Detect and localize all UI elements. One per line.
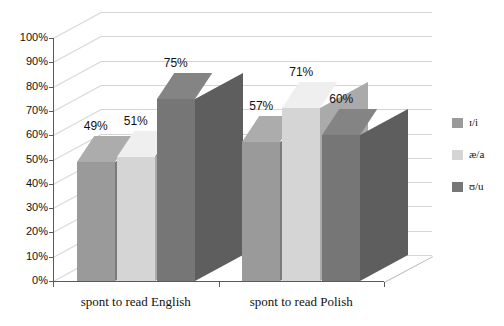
gridline-depth-edge <box>53 12 101 39</box>
bar-value-label: 60% <box>314 93 368 105</box>
legend-label: ʊ/u <box>469 180 484 192</box>
gridline-depth-edge <box>53 36 101 63</box>
y-axis-tick-mark <box>49 208 53 209</box>
y-axis-tick-mark <box>49 38 53 39</box>
y-axis-line <box>53 38 54 282</box>
x-axis-category-label: spont to read English <box>53 295 219 309</box>
bar-chart: 0%10%20%30%40%50%60%70%80%90%100% 49%51%… <box>0 0 504 326</box>
gridline <box>101 85 432 86</box>
gridline <box>101 12 432 13</box>
bar-side-face <box>360 109 408 281</box>
y-axis-tick-label: 30% <box>4 202 48 213</box>
x-axis-category-label: spont to read Polish <box>219 295 385 309</box>
bar-front-face <box>282 108 320 281</box>
bar-front-face <box>322 135 360 281</box>
gridline-depth-edge <box>53 61 101 88</box>
y-axis-tick-mark <box>49 257 53 258</box>
y-axis-tick-mark <box>49 111 53 112</box>
bar-value-label: 51% <box>109 115 163 127</box>
x-axis-tick-mark <box>384 282 385 287</box>
bar-front-face <box>77 162 115 281</box>
x-axis-tick-mark <box>219 282 220 287</box>
y-axis-tick-mark <box>49 135 53 136</box>
y-axis-tick-label: 80% <box>4 81 48 92</box>
legend-label: æ/a <box>469 148 484 160</box>
y-axis-tick-mark <box>49 160 53 161</box>
y-axis-tick-label: 0% <box>4 275 48 286</box>
bar <box>117 157 155 281</box>
y-axis-tick-label: 20% <box>4 226 48 237</box>
legend-swatch-icon <box>452 118 463 128</box>
legend-swatch-icon <box>452 150 463 160</box>
y-axis-tick-label: 90% <box>4 56 48 67</box>
y-axis-tick-label: 60% <box>4 129 48 140</box>
y-axis-tick-label: 40% <box>4 178 48 189</box>
y-axis-tick-mark <box>49 184 53 185</box>
y-axis-tick-mark <box>49 232 53 233</box>
y-axis-tick-label: 70% <box>4 105 48 116</box>
y-axis-tick-mark <box>49 87 53 88</box>
x-axis-tick-mark <box>53 282 54 287</box>
bar-value-label: 75% <box>149 57 203 69</box>
bar <box>77 162 115 281</box>
y-axis-tick-label: 50% <box>4 154 48 165</box>
y-axis-tick-mark <box>49 62 53 63</box>
gridline-depth-edge <box>53 85 101 112</box>
y-axis-tick-label: 10% <box>4 251 48 262</box>
bar <box>322 135 360 281</box>
bar <box>242 142 280 281</box>
bar-front-face <box>242 142 280 281</box>
bar-front-face <box>117 157 155 281</box>
gridline <box>101 36 432 37</box>
bar-value-label: 57% <box>234 100 288 112</box>
y-axis-tick-label: 100% <box>4 32 48 43</box>
legend-label: ɪ/i <box>469 116 478 128</box>
legend-swatch-icon <box>452 182 463 192</box>
bar <box>282 108 320 281</box>
bar-value-label: 71% <box>274 66 328 78</box>
